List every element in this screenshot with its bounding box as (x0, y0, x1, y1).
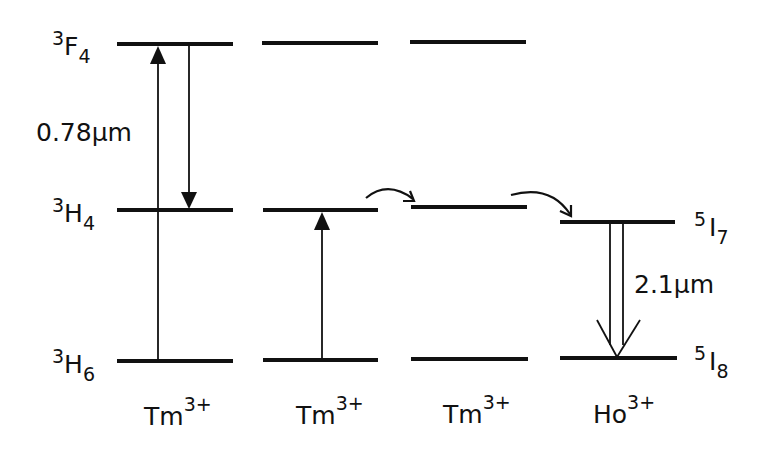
term-label-3F4: 3F4 (52, 27, 91, 67)
laser-wavelength-label: 2.1μm (634, 270, 714, 299)
term-label-5I8: 5I8 (694, 342, 729, 382)
ion-label-tm-1: Tm3+ (143, 393, 212, 431)
cross-relaxation-down-arrow (181, 44, 197, 209)
pump-wavelength-label: 0.78μm (36, 118, 132, 147)
term-label-3H6: 3H6 (52, 345, 95, 385)
ion-label-tm-2: Tm3+ (295, 392, 364, 430)
ion-label-ho: Ho3+ (593, 391, 655, 429)
ion-label-tm-3: Tm3+ (442, 391, 511, 429)
transfer-curved-arrow (511, 192, 571, 216)
term-label-5I7: 5I7 (694, 208, 729, 248)
term-label-3H4: 3H4 (52, 194, 95, 234)
energy-level-diagram: 3F4 3H4 3H6 5I7 5I8 0.78μm 2.1μm Tm3+ Tm… (0, 0, 784, 452)
migration-curved-arrow (366, 189, 414, 201)
pump-arrow (150, 46, 166, 361)
cross-relaxation-up-arrow (314, 212, 330, 360)
